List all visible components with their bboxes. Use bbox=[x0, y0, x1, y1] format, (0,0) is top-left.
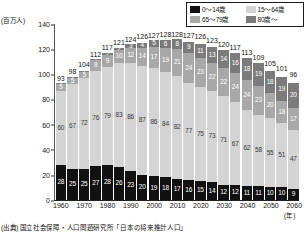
bar-segment-15-64: 86 bbox=[125, 63, 135, 171]
x-axis-line bbox=[54, 200, 299, 201]
x-tick-cell: 1960 bbox=[55, 202, 67, 213]
bar-segment-0-14: 27 bbox=[90, 166, 100, 200]
x-tick-cell: 2020 bbox=[195, 202, 207, 213]
legend-label-0-14: 0〜14歳 bbox=[202, 6, 226, 13]
segment-value-label: 16 bbox=[185, 187, 192, 194]
bar-column[interactable]: 1275178619 bbox=[149, 24, 159, 200]
bar-column[interactable]: 1288218217 bbox=[172, 24, 182, 200]
bar-stack: 962017479 bbox=[288, 79, 298, 200]
bar-segment-80-plus: 11 bbox=[195, 44, 205, 58]
bar-column[interactable]: 1264148720 bbox=[137, 24, 147, 200]
segment-value-label: 86 bbox=[127, 114, 134, 121]
segment-value-label: 25 bbox=[81, 181, 88, 188]
segment-value-label: 87 bbox=[139, 117, 146, 124]
segment-value-label: 20 bbox=[290, 92, 297, 99]
bar-column[interactable]: 12313227314 bbox=[207, 24, 217, 200]
bar-segment-0-14: 12 bbox=[218, 185, 228, 200]
segment-value-label: 17 bbox=[290, 116, 297, 123]
bar-column[interactable]: 1243128623 bbox=[125, 24, 135, 200]
bar-column[interactable]: 11318246211 bbox=[242, 24, 252, 200]
bar-column[interactable]: 104157225 bbox=[79, 24, 89, 200]
bar-segment-0-14: 28 bbox=[56, 165, 66, 200]
bar-segment-65-79: 14 bbox=[137, 48, 147, 66]
legend-item-80-plus: 80歳〜 bbox=[246, 16, 302, 23]
bar-total-label: 96 bbox=[289, 71, 297, 79]
bar-segment-0-14: 15 bbox=[195, 181, 205, 200]
bar-column[interactable]: 962017479 bbox=[288, 24, 298, 200]
bar-stack: 93156028 bbox=[56, 83, 66, 200]
bar-total-label: 127 bbox=[183, 32, 195, 40]
x-tick-cell: 2050 bbox=[265, 202, 277, 213]
segment-value-label: 23 bbox=[197, 69, 204, 76]
segment-value-label: 11 bbox=[197, 48, 203, 55]
bar-column[interactable]: 10919235811 bbox=[253, 24, 263, 200]
bar-column[interactable]: 1212108326 bbox=[114, 24, 124, 200]
segment-value-label: 79 bbox=[104, 113, 111, 120]
segment-value-label: 8 bbox=[94, 62, 97, 69]
segment-value-label: 13 bbox=[209, 52, 216, 59]
segment-value-label: 67 bbox=[232, 141, 239, 148]
x-tick-cell: 2000 bbox=[148, 202, 160, 213]
segment-value-label: 73 bbox=[209, 133, 216, 140]
bar-stack: 11716246712 bbox=[230, 53, 240, 200]
legend-swatch-15-64 bbox=[246, 6, 256, 13]
segment-value-label: 62 bbox=[243, 145, 250, 152]
bar-segment-15-64: 72 bbox=[79, 78, 89, 169]
segment-value-label: 12 bbox=[127, 52, 134, 59]
bar-segment-0-14: 20 bbox=[137, 175, 147, 200]
segment-value-label: 23 bbox=[255, 97, 262, 104]
y-axis: 020406080100120140 bbox=[27, 24, 54, 200]
bar-segment-0-14: 18 bbox=[160, 177, 170, 200]
bar-segment-65-79: 17 bbox=[288, 108, 298, 129]
bar-stack: 12014227112 bbox=[218, 49, 228, 200]
bar-column[interactable]: 10119185110 bbox=[276, 24, 286, 200]
bar-stack: 117297928 bbox=[102, 53, 112, 200]
bar-segment-0-14: 19 bbox=[149, 176, 159, 200]
segment-value-label: 17 bbox=[174, 186, 181, 193]
legend-item-65-79: 65〜79歳 bbox=[190, 16, 246, 23]
bar-stack: 10119185110 bbox=[276, 73, 286, 200]
bar-stack: 12611237515 bbox=[195, 42, 205, 200]
segment-value-label: 10 bbox=[116, 53, 123, 60]
bar-segment-65-79: 9 bbox=[102, 55, 112, 66]
bar-segment-80-plus: 13 bbox=[207, 47, 217, 63]
plot-area: 020406080100120140 931560289815672510415… bbox=[27, 24, 299, 200]
legend-swatch-65-79 bbox=[190, 16, 200, 23]
segment-value-label: 47 bbox=[290, 156, 297, 163]
bar-stack: 10518205510 bbox=[265, 68, 275, 200]
bar-column[interactable]: 1286198418 bbox=[160, 24, 170, 200]
bar-total-label: 126 bbox=[136, 33, 148, 41]
bar-segment-15-64: 73 bbox=[207, 91, 217, 183]
bar-stack: 104157225 bbox=[79, 69, 89, 200]
bar-segment-15-64: 82 bbox=[172, 76, 182, 179]
bar-column[interactable]: 12611237515 bbox=[195, 24, 205, 200]
segment-value-label: 10 bbox=[278, 190, 285, 197]
bar-segment-0-14: 11 bbox=[242, 186, 252, 200]
segment-value-label: 28 bbox=[57, 179, 64, 186]
segment-value-label: 14 bbox=[209, 188, 216, 195]
bar-column[interactable]: 98156725 bbox=[67, 24, 77, 200]
segment-value-label: 28 bbox=[104, 179, 111, 186]
segment-value-label: 19 bbox=[255, 71, 262, 78]
bar-column[interactable]: 117297928 bbox=[102, 24, 112, 200]
legend-item-0-14: 0〜14歳 bbox=[190, 6, 246, 13]
legend-swatch-0-14 bbox=[190, 6, 200, 13]
bar-column[interactable]: 10518205510 bbox=[265, 24, 275, 200]
bar-segment-80-plus: 19 bbox=[253, 63, 263, 86]
segment-value-label: 71 bbox=[220, 137, 227, 144]
segment-value-label: 19 bbox=[278, 86, 285, 93]
bar-segment-15-64: 79 bbox=[102, 67, 112, 165]
bar-column[interactable]: 12014227112 bbox=[218, 24, 228, 200]
bar-segment-0-14: 23 bbox=[125, 171, 135, 200]
bar-column[interactable]: 112187627 bbox=[90, 24, 100, 200]
bar-segment-65-79: 21 bbox=[172, 49, 182, 75]
bar-segment-65-79: 17 bbox=[149, 47, 159, 68]
segment-value-label: 75 bbox=[197, 131, 204, 138]
bar-column[interactable]: 1279247716 bbox=[183, 24, 193, 200]
bar-column[interactable]: 11716246712 bbox=[230, 24, 240, 200]
bar-column[interactable]: 93156028 bbox=[56, 24, 66, 200]
bar-segment-0-14: 10 bbox=[265, 187, 275, 200]
bar-total-label: 113 bbox=[241, 49, 252, 57]
segment-value-label: 6 bbox=[164, 41, 167, 48]
segment-value-label: 83 bbox=[116, 112, 123, 119]
